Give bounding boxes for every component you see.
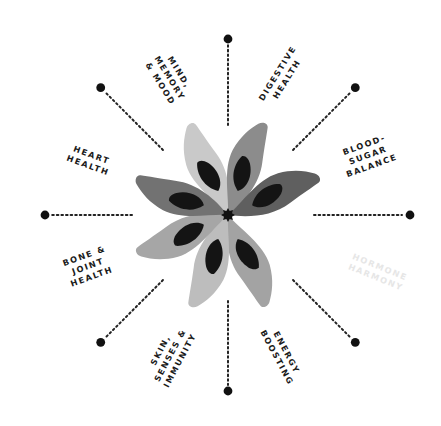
dot-icon <box>41 211 50 220</box>
dotted-line <box>106 280 163 337</box>
label-bone: BONE &JOINTHEALTH <box>61 243 114 289</box>
label-mind: MIND,MEMORY& MOOD <box>143 48 197 108</box>
dot-icon <box>351 338 360 347</box>
spoke-heart <box>41 211 132 220</box>
label-heart: HEARTHEALTH <box>65 142 114 177</box>
dot-icon <box>351 83 360 92</box>
label-hormone: HORMONEHARMONY <box>347 251 409 293</box>
label-energy: ENERGYBOOSTING <box>258 323 305 387</box>
star-shape <box>221 208 235 222</box>
dot-icon <box>406 211 415 220</box>
dotted-line <box>106 93 163 150</box>
spoke-bone <box>96 280 163 347</box>
dot-icon <box>96 338 105 347</box>
labels: MIND,MEMORY& MOODDIGESTIVEHEALTHBLOOD-SU… <box>61 44 409 389</box>
label-digestive: DIGESTIVEHEALTH <box>256 44 307 109</box>
spoke-digestive <box>224 35 233 125</box>
label-skin: SKIN,SENSES &IMMUNITY <box>142 321 199 389</box>
spoke-hormone <box>314 211 414 220</box>
spoke-blood-sugar <box>293 83 360 150</box>
dotted-line <box>293 93 350 150</box>
center-star-icon <box>221 208 235 222</box>
label-blood-sugar: BLOOD-SUGARBALANCE <box>337 131 398 179</box>
dot-icon <box>224 35 233 44</box>
dot-icon <box>96 83 105 92</box>
spoke-skin <box>224 301 233 395</box>
dotted-line <box>293 280 350 337</box>
spoke-mind <box>96 83 163 150</box>
dot-icon <box>224 387 233 396</box>
health-flower-diagram: MIND,MEMORY& MOODDIGESTIVEHEALTHBLOOD-SU… <box>0 0 441 426</box>
spoke-energy <box>293 280 360 347</box>
